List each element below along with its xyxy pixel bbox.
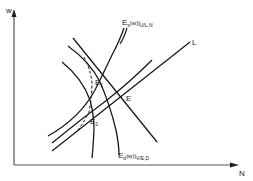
upward-curve-middle xyxy=(52,60,152,143)
demand-curve-label: Ed(w)|V/E,D xyxy=(118,152,149,161)
y-axis-label: w xyxy=(6,7,12,15)
x-axis-arrow-icon xyxy=(230,163,239,168)
point-E2-label: E2 xyxy=(90,118,98,127)
demand-curve-left xyxy=(62,62,94,158)
supply-curve-label: Es(w)|U/L,N xyxy=(122,19,153,28)
line-L-label: L xyxy=(192,39,196,47)
point-E1-label: E1 xyxy=(95,79,103,88)
y-axis-arrow-icon xyxy=(12,9,17,17)
supply-curve-Es xyxy=(48,28,124,136)
point-E-label: E xyxy=(126,95,131,103)
x-axis-label: N xyxy=(239,170,245,178)
